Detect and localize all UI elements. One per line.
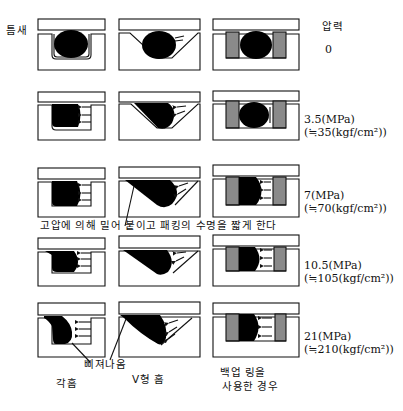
pressure-row-1: 3.5(MPa) (≒35(kgf/cm²)) [304,113,387,139]
pressure-row-2: 7(MPa) (≒70(kgf/cm²)) [304,189,387,215]
pressure-kgf: (≒70(kgf/cm²)) [304,202,387,215]
column-label-backup-ring-1: 백업 링을 [220,366,266,379]
row-0-backup-ring [213,19,299,70]
high-pressure-note: 고압에 의해 밀어 붙이고 패킹의 수명을 짧게 한다 [40,219,277,232]
pressure-row-3: 10.5(MPa) (≒105(kgf/cm²)) [304,259,394,285]
row-4-backup-ring [213,303,299,357]
column-label-rect-groove: 각홈 [56,377,77,390]
row-4-rect-groove [38,303,105,362]
row-4-v-groove [110,302,200,360]
row-0-v-groove [119,19,200,70]
pressure-row-4: 21(MPa) (≒210(kgf/cm²)) [304,330,394,356]
column-label-v-groove: V형 홈 [132,373,165,386]
row-0-rect-groove [38,19,105,70]
pressure-mpa: 0 [325,43,332,56]
pressure-kgf: (≒35(kgf/cm²)) [304,126,387,139]
row-3-rect-groove [38,238,105,286]
pressure-kgf: (≒105(kgf/cm²)) [304,272,394,285]
row-2-rect-groove [38,168,105,217]
pressure-mpa: 10.5(MPa) [304,259,394,272]
row-1-backup-ring [213,91,299,140]
extrusion-label: 삐져나옴 [84,358,126,371]
pressure-row-0: 0 [325,43,332,56]
row-3-v-groove [119,236,200,286]
row-1-rect-groove [38,92,105,140]
pressure-kgf: (≒210(kgf/cm²)) [304,343,394,356]
pressure-mpa: 3.5(MPa) [304,113,387,126]
column-label-backup-ring-2: 사용한 경우 [222,380,278,393]
pressure-mpa: 7(MPa) [304,189,387,202]
row-1-v-groove [119,92,200,140]
pressure-header: 압력 [322,20,343,33]
row-2-v-groove [119,167,200,226]
row-3-backup-ring [213,235,299,286]
gap-label: 틈새 [6,24,27,37]
row-2-backup-ring [213,165,299,217]
pressure-mpa: 21(MPa) [304,330,394,343]
